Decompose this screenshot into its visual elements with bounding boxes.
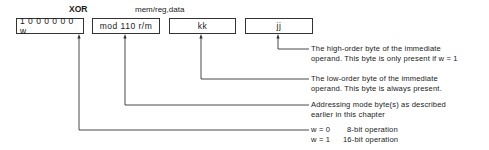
jj-description-line2: operand. This byte is only present if w …	[311, 54, 458, 64]
w-value: w = 0	[311, 125, 343, 135]
w-meaning: 8-bit operation	[343, 125, 398, 135]
w-row-0: w = 0 8-bit operation	[311, 125, 398, 135]
jj-description: The high-order byte of the immediate ope…	[311, 44, 458, 64]
w-connector	[79, 36, 309, 130]
w-value: w = 1	[311, 135, 343, 145]
arrow-up-icon	[77, 34, 80, 39]
arrow-up-icon	[123, 34, 126, 39]
mod-connector	[125, 36, 309, 105]
mod-description: Addressing mode byte(s) as described ear…	[311, 100, 446, 120]
w-description: w = 0 8-bit operation w = 1 16-bit opera…	[311, 125, 398, 145]
jj-description-line1: The high-order byte of the immediate	[311, 44, 458, 54]
kk-description-line1: The low-order byte of the immediate	[311, 74, 442, 84]
arrow-up-icon	[199, 34, 202, 39]
kk-description: The low-order byte of the immediate oper…	[311, 74, 442, 94]
kk-description-line2: operand. This byte is always present.	[311, 84, 442, 94]
w-meaning: 16-bit operation	[343, 135, 398, 145]
kk-connector	[201, 36, 309, 79]
jj-connector	[278, 36, 309, 49]
mod-description-line1: Addressing mode byte(s) as described	[311, 100, 446, 110]
mod-description-line2: earlier in this chapter	[311, 110, 446, 120]
arrow-up-icon	[276, 34, 279, 39]
w-row-1: w = 1 16-bit operation	[311, 135, 398, 145]
